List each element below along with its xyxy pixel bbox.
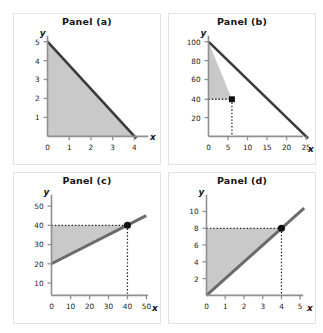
panel-d-xtick-3: 3: [260, 302, 265, 311]
panel-a-x-axis-label: x: [149, 132, 156, 142]
panel-b-xtick-15: 15: [262, 143, 271, 152]
panel-d-ytick-8: 8: [194, 224, 199, 233]
panel-b-ytick-20: 20: [191, 114, 201, 123]
panel-a-xtick-4: 4: [132, 143, 137, 152]
panel-d-data-point: [278, 225, 285, 232]
panel-c-xtick-10: 10: [66, 302, 76, 311]
panel-d-xtick-1: 1: [223, 302, 228, 311]
panel-d-y-axis-label: y: [199, 187, 206, 197]
panel-a-ytick-5: 5: [35, 38, 40, 47]
panel-d-ytick-2: 2: [194, 275, 199, 284]
panel-b-x-axis-label: x: [307, 144, 314, 154]
panel-d-xtick-5: 5: [298, 302, 303, 311]
panel-b-ytick-60: 60: [191, 75, 201, 84]
panel-a-plot: 5 4 3 2 1 0 1 2 3 4 y x: [14, 14, 160, 164]
panel-c-y-axis-label: y: [44, 187, 51, 197]
panel-a-ytick-3: 3: [35, 75, 40, 84]
panel-d-ytick-10: 10: [189, 207, 199, 216]
panel-a-ytick-1: 1: [35, 113, 40, 122]
panel-c: Panel (c): [13, 172, 161, 324]
panel-d-plot: 10 8 6 4 2 0 1 2 3 4 5 y x: [169, 173, 315, 323]
panel-b: Panel (b): [168, 13, 316, 165]
panel-d-xtick-2: 2: [242, 302, 247, 311]
panel-d-x-axis-label: x: [306, 303, 313, 313]
panel-b-shaded-region: [208, 42, 231, 100]
panel-c-xtick-0: 0: [49, 302, 54, 311]
panel-c-ytick-30: 30: [34, 241, 44, 250]
panel-b-ytick-80: 80: [191, 57, 201, 66]
panel-b-y-axis-label: y: [201, 28, 208, 38]
panel-d-ytick-4: 4: [194, 258, 199, 267]
panel-a-xtick-3: 3: [110, 143, 115, 152]
panel-b-xtick-10: 10: [243, 143, 253, 152]
panel-c-x-axis-label: x: [151, 303, 158, 313]
panel-c-ytick-40: 40: [34, 221, 44, 230]
panel-a-xtick-0: 0: [45, 143, 50, 152]
panel-a: Panel (a): [13, 13, 161, 165]
panel-b-xtick-0: 0: [206, 143, 211, 152]
panel-c-data-point: [124, 222, 131, 229]
panel-d: Panel (d): [168, 172, 316, 324]
panel-c-ytick-50: 50: [34, 202, 44, 211]
panel-c-ytick-20: 20: [34, 260, 44, 269]
panel-a-xtick-2: 2: [89, 143, 94, 152]
panel-c-plot: 50 40 30 20 10 0 10 20 30 40 50 y x: [14, 173, 160, 323]
panel-b-xtick-5: 5: [226, 143, 231, 152]
panel-b-ytick-100: 100: [187, 38, 201, 47]
panel-d-xtick-0: 0: [204, 302, 209, 311]
panel-b-plot: 100 80 60 40 20 0 5 10 15 20 25 y x: [169, 14, 315, 164]
panel-b-xtick-20: 20: [282, 143, 292, 152]
panel-c-xtick-20: 20: [85, 302, 95, 311]
panel-a-ytick-4: 4: [35, 57, 40, 66]
panel-d-xtick-4: 4: [279, 302, 284, 311]
panel-c-ytick-10: 10: [34, 279, 44, 288]
panel-a-y-axis-label: y: [40, 28, 47, 38]
panel-a-xtick-1: 1: [67, 143, 72, 152]
panel-c-xtick-30: 30: [104, 302, 114, 311]
panel-c-xtick-50: 50: [142, 302, 152, 311]
figure-container: Panel (a): [0, 0, 323, 333]
panel-a-ytick-2: 2: [35, 94, 40, 103]
panel-c-xtick-40: 40: [123, 302, 133, 311]
panel-b-ytick-40: 40: [191, 95, 201, 104]
panel-b-data-point: [229, 96, 235, 102]
page-margin-artifact: [0, 0, 323, 11]
panel-d-ytick-6: 6: [194, 241, 199, 250]
